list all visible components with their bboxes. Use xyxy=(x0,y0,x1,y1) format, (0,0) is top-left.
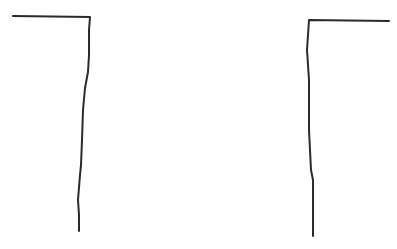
sketch-drawing xyxy=(0,0,397,249)
sketch-canvas xyxy=(0,0,397,249)
left-bracket-stroke xyxy=(13,16,90,231)
right-bracket-stroke xyxy=(307,20,389,236)
